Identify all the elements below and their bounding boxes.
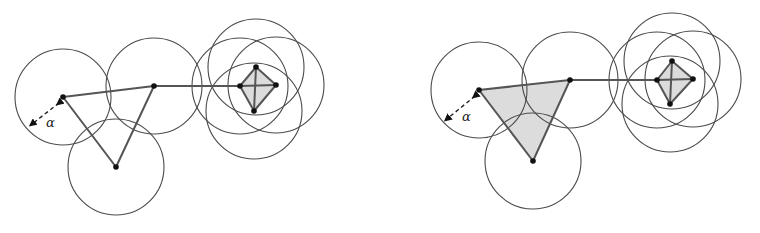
tetrahedron-fill [240, 67, 276, 111]
alpha-label: α [462, 109, 471, 124]
panel-right-filled-complex: α [431, 13, 741, 209]
vertex-point [530, 158, 536, 164]
vertex-point [60, 94, 66, 100]
complex-edge [657, 79, 693, 80]
vertex-point [253, 64, 259, 70]
alpha-radius-arrow-icon [447, 96, 475, 119]
vertex-point [690, 76, 696, 82]
complex-edge [63, 86, 154, 97]
vertex-point [476, 87, 482, 93]
vertex-point [273, 82, 279, 88]
vertex-point [669, 58, 675, 64]
vertex-point [251, 108, 257, 114]
panel-left-unfilled-complex: α [15, 19, 324, 215]
vertex-point [151, 83, 157, 89]
vertex-point [654, 77, 660, 83]
complex-edge [240, 85, 276, 86]
diagram-canvas: α α [0, 0, 760, 233]
vertex-point [667, 101, 673, 107]
vertex-point [113, 164, 119, 170]
vertex-point [237, 83, 243, 89]
alpha-label: α [46, 115, 55, 130]
complex-edge [116, 86, 154, 167]
vertex-point [567, 77, 573, 83]
complex-edge [63, 97, 116, 167]
